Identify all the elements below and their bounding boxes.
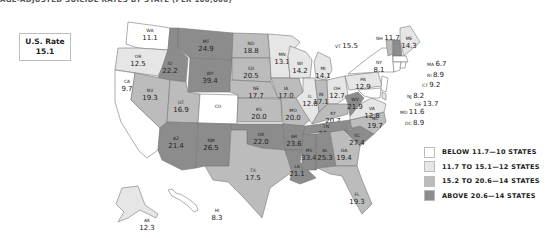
state-abbr: WY <box>206 71 213 76</box>
state-rate: 25.3 <box>317 154 333 162</box>
state-rate: 17.5 <box>245 174 261 182</box>
state-shape <box>400 26 420 56</box>
state-shape <box>393 56 408 62</box>
legend-swatch <box>424 190 435 201</box>
state-de <box>382 92 386 100</box>
legend-swatch <box>424 147 435 158</box>
state-abbr: MS <box>306 148 313 153</box>
state-abbr: OK <box>258 132 266 137</box>
state-rate: 11.1 <box>142 34 158 42</box>
state-abbr: AZ <box>173 136 179 141</box>
state-sd: SD20.5 <box>232 58 271 82</box>
state-abbr: NE <box>253 86 259 91</box>
state-wi: WI14.2 <box>288 46 312 78</box>
state-abbr: NM <box>207 138 214 143</box>
state-ny: NY8.1 <box>348 48 394 74</box>
state-fl: FL19.3 <box>318 166 372 214</box>
state-rate: 12.3 <box>139 224 155 232</box>
state-abbr: SD <box>248 66 255 71</box>
state-ar: AR23.6 <box>283 124 305 150</box>
state-abbr: KS <box>256 107 262 112</box>
state-ct <box>393 62 401 72</box>
state-rate: 12.8 <box>364 112 380 120</box>
state-nd: ND18.8 <box>232 33 270 58</box>
state-shape <box>348 48 394 74</box>
state-rate: 19.4 <box>336 154 352 162</box>
state-shape <box>318 166 372 214</box>
callout-ct: CT 9.2 <box>422 81 440 89</box>
state-abbr: LA <box>294 164 301 169</box>
state-abbr: TN <box>322 124 329 129</box>
state-rate: 39.4 <box>202 77 218 85</box>
state-abbr: WV <box>351 97 359 102</box>
state-rate: 12.5 <box>130 60 146 68</box>
state-abbr: MO <box>289 108 297 113</box>
state-abbr: MN <box>278 52 285 57</box>
callout-ma: MA 6.7 <box>427 60 447 68</box>
state-abbr: NY <box>376 60 382 65</box>
state-abbr: NV <box>147 88 154 93</box>
state-rate: 8.1 <box>373 66 384 74</box>
state-rate: 14.1 <box>315 72 331 80</box>
state-abbr: MT <box>203 39 210 44</box>
state-abbr: CA <box>124 79 131 84</box>
state-abbr: ID <box>168 61 173 66</box>
state-abbr: OH <box>334 86 341 91</box>
legend-label: 15.2 TO 20.6—14 STATES <box>442 177 540 185</box>
state-rate: 16.9 <box>173 106 189 114</box>
state-shape <box>393 62 401 72</box>
state-wa: WA11.1 <box>126 22 170 50</box>
state-abbr: VA <box>369 106 376 111</box>
state-rate: 24.9 <box>198 45 214 53</box>
state-abbr: SC <box>354 133 360 138</box>
legend-item: 15.2 TO 20.6—14 STATES <box>424 174 540 189</box>
state-rate: 19.7 <box>367 122 383 130</box>
state-abbr: ND <box>248 41 255 46</box>
state-shape <box>116 186 158 222</box>
legend-swatch <box>424 161 435 172</box>
state-hi: HI8.3 <box>168 189 223 222</box>
state-abbr: UT <box>178 100 184 105</box>
state-shape <box>178 28 233 60</box>
state-abbr: IL <box>308 94 312 99</box>
state-rate: 22.2 <box>162 67 178 75</box>
state-rate: 20.0 <box>251 113 267 121</box>
callout-vt: VT 15.5 <box>335 42 358 50</box>
state-shape <box>400 62 406 68</box>
state-rate: 21.1 <box>289 170 305 178</box>
state-rate: 17.1 <box>313 98 329 106</box>
state-rate: 21.4 <box>168 142 184 150</box>
state-rate: 21.9 <box>347 103 363 111</box>
legend-label: 11.7 TO 15.1—12 STATES <box>442 163 540 171</box>
state-rate: 18.8 <box>243 47 259 55</box>
state-nj <box>381 76 388 92</box>
state-abbr: MI <box>320 66 325 71</box>
state-rate: 27.4 <box>349 139 365 147</box>
legend-item: 11.7 TO 15.1—12 STATES <box>424 160 540 175</box>
state-oh: OH12.7 <box>327 76 348 104</box>
state-ms: MS33.4 <box>301 134 317 170</box>
state-rate: 23.6 <box>286 140 302 148</box>
state-az: AZ21.4 <box>158 122 198 170</box>
legend-label: BELOW 11.7—10 STATES <box>442 148 537 156</box>
state-abbr: ME <box>406 36 413 41</box>
callout-nj: NJ 8.2 <box>407 92 424 100</box>
state-rate: 26.5 <box>203 144 219 152</box>
state-shape <box>168 189 198 212</box>
callout-md: MD 11.6 <box>400 108 425 116</box>
state-rate: 14.3 <box>401 42 417 50</box>
state-wy: WY39.4 <box>188 58 232 92</box>
state-rate: 22.0 <box>253 138 269 146</box>
state-abbr: CO <box>215 104 222 109</box>
state-nm: NM26.5 <box>196 123 231 168</box>
state-ak: AK12.3 <box>116 186 158 232</box>
state-abbr: OR <box>135 54 142 59</box>
state-rate: 12.7 <box>329 92 345 100</box>
state-rate: 33.4 <box>301 154 317 162</box>
state-abbr: IN <box>319 92 324 97</box>
legend-label: ABOVE 20.6—14 STATES <box>442 192 536 200</box>
state-ks: KS20.0 <box>237 98 282 122</box>
state-co: CO <box>198 94 238 124</box>
state-ri <box>400 62 406 68</box>
state-abbr: TX <box>249 168 256 173</box>
